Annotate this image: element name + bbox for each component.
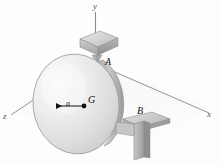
axis-label-z: z [3,112,7,121]
axis-label-y: y [93,2,97,11]
figure-drawing [0,0,221,164]
label-center-of-mass-g: G [88,95,95,105]
label-bearing-a: A [105,57,111,67]
bearing-b-bracket [116,112,170,160]
mechanics-figure: y x z A B G a [0,0,221,164]
center-of-mass-marker [82,104,87,109]
label-bearing-b: B [137,106,143,116]
axis-label-x: x [207,110,211,119]
label-offset-a: a [66,100,70,108]
